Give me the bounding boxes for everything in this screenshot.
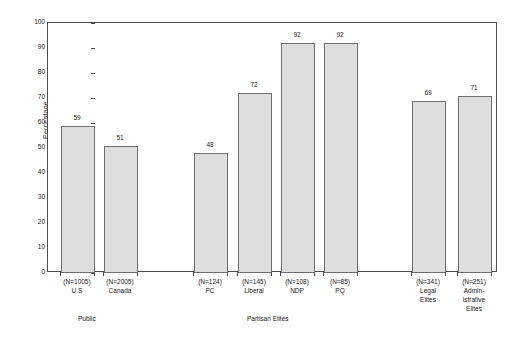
x-tick-mark	[280, 272, 281, 276]
y-tick-mark	[91, 23, 95, 24]
y-tick-label: 90	[0, 42, 45, 52]
bar	[458, 96, 492, 274]
bar	[194, 153, 228, 273]
y-tick-label: 40	[0, 167, 45, 177]
bar-value-label: 92	[280, 31, 314, 39]
group-label: Partisan Elites	[247, 314, 289, 323]
x-tick-mark	[237, 272, 238, 276]
bar	[238, 93, 272, 273]
bar-value-label: 48	[193, 141, 227, 149]
x-tick-mark	[445, 272, 446, 276]
y-tick-label: 30	[0, 192, 45, 202]
y-tick-mark	[91, 73, 95, 74]
group-label: Public	[78, 314, 96, 323]
x-tick-mark	[103, 272, 104, 276]
x-tick-mark	[137, 272, 138, 276]
y-tick-label: 50	[0, 142, 45, 152]
bar	[412, 101, 446, 274]
bar-chart: Percentage 0102030405060708090100 (N=100…	[0, 0, 510, 341]
bar-value-label: 51	[103, 134, 137, 142]
category-name-label: Admin-	[446, 286, 502, 295]
category-name-label: istrative	[446, 295, 502, 304]
x-tick-mark	[314, 272, 315, 276]
bar-value-label: 71	[457, 84, 491, 92]
bar	[324, 43, 358, 273]
category-name-label: Elites	[446, 304, 502, 313]
sample-size-label: (N=2005)	[92, 277, 148, 286]
x-category-label: (N=85)PQ	[312, 277, 368, 295]
y-tick-label: 0	[0, 267, 45, 277]
y-tick-label: 70	[0, 92, 45, 102]
category-name-label: PQ	[312, 286, 368, 295]
y-tick-label: 60	[0, 117, 45, 127]
sample-size-label: (N=85)	[312, 277, 368, 286]
x-tick-mark	[94, 272, 95, 276]
y-tick-label: 80	[0, 67, 45, 77]
y-tick-mark	[91, 98, 95, 99]
x-tick-mark	[60, 272, 61, 276]
plot-area	[47, 22, 497, 272]
y-tick-label: 10	[0, 242, 45, 252]
x-tick-mark	[491, 272, 492, 276]
x-category-label: (N=2005)Canada	[92, 277, 148, 295]
bar	[104, 146, 138, 274]
x-tick-mark	[357, 272, 358, 276]
bar-value-label: 69	[411, 89, 445, 97]
bar-value-label: 59	[60, 114, 94, 122]
y-tick-mark	[91, 123, 95, 124]
x-tick-mark	[227, 272, 228, 276]
x-tick-mark	[193, 272, 194, 276]
category-name-label: Canada	[92, 286, 148, 295]
x-tick-mark	[323, 272, 324, 276]
x-category-label: (N=251)Admin-istrativeElites	[446, 277, 502, 313]
bar	[61, 126, 95, 274]
sample-size-label: (N=251)	[446, 277, 502, 286]
y-tick-label: 20	[0, 217, 45, 227]
bar-value-label: 92	[323, 31, 357, 39]
bar	[281, 43, 315, 273]
bar-value-label: 72	[237, 81, 271, 89]
x-tick-mark	[457, 272, 458, 276]
x-tick-mark	[411, 272, 412, 276]
y-tick-mark	[91, 48, 95, 49]
x-tick-mark	[271, 272, 272, 276]
y-tick-label: 100	[0, 17, 45, 27]
